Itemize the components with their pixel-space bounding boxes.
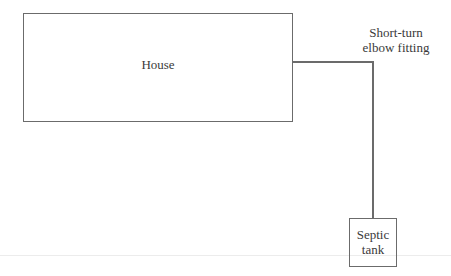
septic-tank-label: Septic tank — [349, 227, 397, 257]
elbow-fitting-label-line2: elbow fitting — [352, 40, 440, 55]
septic-tank-label-line1: Septic — [349, 227, 397, 242]
pipe-horizontal — [292, 61, 373, 63]
house-label: House — [23, 57, 293, 72]
septic-tank-label-line2: tank — [349, 242, 397, 257]
septic-layout-diagram: House Short-turn elbow fitting Septic ta… — [0, 0, 451, 276]
elbow-fitting-label-line1: Short-turn — [352, 25, 440, 40]
elbow-fitting-label: Short-turn elbow fitting — [352, 25, 440, 55]
pipe-vertical — [372, 61, 374, 219]
